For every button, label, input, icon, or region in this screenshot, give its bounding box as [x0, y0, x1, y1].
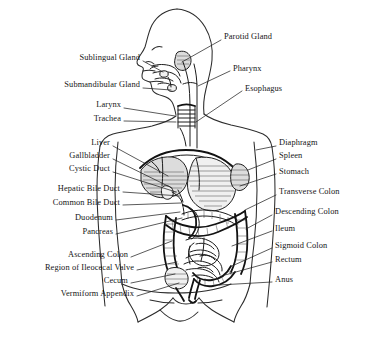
stomach-shape [187, 157, 237, 211]
leader-esophagus [196, 91, 242, 122]
label-trachea: Trachea [0, 114, 121, 123]
label-anus: Anus [275, 275, 293, 284]
parotid-gland-shape [175, 51, 191, 70]
leader-anus [219, 282, 272, 285]
pharynx-esophagus-trachea [178, 62, 197, 148]
label-ascending-colon: Ascending Colon [0, 250, 128, 259]
ascending-colon-shape [163, 216, 180, 276]
anatomy-figure: Sublingual Gland Submandibular Gland Lar… [0, 0, 365, 339]
anus-shape [189, 300, 196, 303]
leader-diaphragm [256, 146, 276, 150]
label-duodenum: Duodenum [0, 213, 113, 222]
rectum-shape [189, 279, 194, 298]
leader-submandibular-gland [143, 88, 171, 90]
leader-pharynx [198, 71, 230, 86]
label-sublingual-gland: Sublingual Gland [0, 53, 140, 62]
leader-descending-colon [246, 215, 272, 229]
leader-pancreas [116, 218, 182, 234]
leader-trachea [124, 121, 176, 122]
label-pharynx: Pharynx [233, 64, 262, 73]
leader-ascending-colon [131, 241, 172, 257]
label-diaphragm: Diaphragm [279, 138, 318, 147]
submandibular-gland-shape [168, 85, 177, 92]
label-esophagus: Esophagus [245, 84, 282, 93]
label-parotid-gland: Parotid Gland [224, 32, 272, 41]
larynx-trachea-rings [178, 105, 195, 129]
label-rectum: Rectum [275, 255, 302, 264]
sublingual-gland-shape [160, 71, 168, 77]
label-pancreas: Pancreas [0, 227, 113, 236]
leader-common-bile-duct [123, 203, 181, 205]
label-gallbladder: Gallbladder [0, 151, 110, 160]
spleen-shape [231, 164, 250, 191]
label-submandibular-gland: Submandibular Gland [0, 80, 140, 89]
label-region-of-ileocecal-valve: Region of Ileocecal Valve [0, 263, 134, 272]
label-descending-colon: Descending Colon [275, 207, 339, 216]
label-ileum: Ileum [275, 224, 295, 233]
descending-colon-shape [231, 211, 248, 274]
label-spleen: Spleen [279, 151, 302, 160]
leader-vermiform-appendix [137, 283, 179, 296]
ileum-small-intestine-shape [184, 238, 222, 282]
leader-transverse-colon [245, 195, 276, 210]
leader-larynx [124, 108, 175, 116]
leader-spleen [248, 159, 276, 170]
oral-cavity-detail [150, 65, 181, 92]
label-sigmoid-colon: Sigmoid Colon [275, 241, 327, 250]
label-cystic-duct: Cystic Duct [0, 164, 110, 173]
pancreas-shape [182, 210, 237, 226]
label-liver: Liver [0, 138, 110, 147]
label-stomach: Stomach [279, 167, 309, 176]
label-hepatic-bile-duct: Hepatic Bile Duct [0, 184, 120, 193]
label-larynx: Larynx [0, 100, 121, 109]
label-common-bile-duct: Common Bile Duct [0, 198, 120, 207]
label-vermiform-appendix: Vermiform Appendix [0, 289, 134, 298]
leader-parotid-gland [182, 40, 221, 62]
cecum-appendix-shape [165, 267, 188, 301]
label-transverse-colon: Transverse Colon [279, 187, 340, 196]
label-cecum: Cecum [0, 276, 128, 285]
